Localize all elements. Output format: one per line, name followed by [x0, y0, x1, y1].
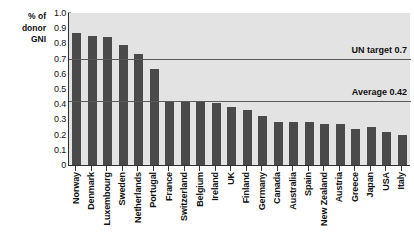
x-axis-label-slot: Ireland	[211, 172, 220, 248]
x-axis-tick-mark	[195, 166, 204, 171]
x-axis-tick-mark	[226, 166, 235, 171]
bar	[196, 101, 205, 165]
x-axis-label: Germany	[257, 172, 267, 210]
x-axis-label: UK	[226, 172, 236, 185]
x-axis-label: New Zealand	[319, 172, 329, 226]
x-axis-label-slot: Italy	[397, 172, 406, 248]
x-axis-tick-mark	[273, 166, 282, 171]
x-axis-tick-mark	[257, 166, 266, 171]
x-axis-label: Canada	[272, 172, 282, 204]
x-axis-tick-mark	[350, 166, 359, 171]
x-axis-label-slot: Austria	[335, 172, 344, 248]
x-axis-label-slot: UK	[226, 172, 235, 248]
bar	[72, 33, 81, 165]
x-axis-tick-mark	[304, 166, 313, 171]
y-axis-tick-label: 0.3	[44, 114, 66, 124]
bar	[305, 122, 314, 165]
x-axis-label-slot: Canada	[273, 172, 282, 248]
bar	[320, 124, 329, 165]
y-axis-tick-label: 0.5	[44, 84, 66, 94]
x-axis-label-slot: Finland	[242, 172, 251, 248]
x-axis-label: Ireland	[210, 172, 220, 201]
x-axis-label-slot: New Zealand	[319, 172, 328, 248]
x-axis-label: Spain	[303, 172, 313, 196]
x-axis-tick-mark	[397, 166, 406, 171]
reference-line	[69, 59, 411, 60]
y-axis-tick-label: 0	[44, 160, 66, 170]
bar	[181, 101, 190, 165]
x-axis-tick-marks	[68, 166, 409, 171]
x-axis-tick-mark	[211, 166, 220, 171]
x-axis-label: Norway	[71, 172, 81, 204]
x-axis-label: Netherlands	[133, 172, 143, 223]
x-axis-tick-mark	[102, 166, 111, 171]
bar	[165, 101, 174, 165]
x-axis-label: Portugal	[148, 172, 158, 208]
plot-area: UN target 0.7Average 0.42	[68, 13, 410, 166]
x-axis-tick-mark	[87, 166, 96, 171]
x-axis-tick-mark	[381, 166, 390, 171]
x-axis-label-slot: Greece	[350, 172, 359, 248]
bar	[150, 69, 159, 165]
bar	[258, 116, 267, 165]
x-axis-label: Finland	[241, 172, 251, 203]
bar	[289, 122, 298, 165]
x-axis-label: Austria	[334, 172, 344, 202]
x-axis-label-slot: Luxembourg	[102, 172, 111, 248]
x-axis-label: France	[164, 172, 174, 201]
y-axis-tick-label: 0.1	[44, 145, 66, 155]
x-axis-label-slot: Denmark	[87, 172, 96, 248]
x-axis-label-slot: Japan	[366, 172, 375, 248]
bar	[134, 54, 143, 165]
x-axis-label-slot: Norway	[71, 172, 80, 248]
x-axis-label-slot: Netherlands	[133, 172, 142, 248]
x-axis-tick-mark	[242, 166, 251, 171]
x-axis-tick-mark	[335, 166, 344, 171]
x-axis-label-slot: Sweden	[118, 172, 127, 248]
x-axis-label: Switzerland	[179, 172, 189, 221]
x-axis-label: Sweden	[117, 172, 127, 205]
x-axis-tick-mark	[288, 166, 297, 171]
x-axis-tick-mark	[118, 166, 127, 171]
x-axis-tick-mark	[133, 166, 142, 171]
x-axis-tick-mark	[319, 166, 328, 171]
y-axis-title: % of donor GNI	[2, 11, 46, 46]
x-axis-tick-mark	[164, 166, 173, 171]
x-axis-tick-mark	[149, 166, 158, 171]
x-axis-label-slot: Belgium	[195, 172, 204, 248]
x-axis-label-slot: Spain	[304, 172, 313, 248]
bar	[119, 45, 128, 165]
x-axis-label-slot: Portugal	[149, 172, 158, 248]
x-axis-label: Greece	[350, 172, 360, 202]
x-axis-label: Denmark	[86, 172, 96, 210]
reference-line-label: UN target 0.7	[351, 45, 407, 55]
bar	[212, 103, 221, 165]
y-axis-tick-label: 0.8	[44, 38, 66, 48]
bar	[382, 132, 391, 165]
x-axis-labels: NorwayDenmarkLuxembourgSwedenNetherlands…	[68, 172, 409, 248]
x-axis-label-slot: Germany	[257, 172, 266, 248]
y-axis-tick-label: 1.0	[44, 8, 66, 18]
x-axis-label: Japan	[365, 172, 375, 198]
x-axis-tick-mark	[366, 166, 375, 171]
x-axis-label-slot: USA	[381, 172, 390, 248]
reference-line-label: Average 0.42	[352, 87, 407, 97]
x-axis-label-slot: France	[164, 172, 173, 248]
y-axis-tick-label: 0.2	[44, 130, 66, 140]
x-axis: NorwayDenmarkLuxembourgSwedenNetherlands…	[68, 166, 409, 248]
aid-spending-bar-chart: % of donor GNI 1.00.90.80.70.60.50.40.30…	[0, 0, 414, 248]
bar	[274, 122, 283, 165]
x-axis-label: Belgium	[195, 172, 205, 207]
x-axis-label: Luxembourg	[102, 172, 112, 226]
x-axis-label: Italy	[396, 172, 406, 190]
x-axis-tick-mark	[71, 166, 80, 171]
y-axis-tick-label: 0.4	[44, 99, 66, 109]
x-axis-tick-mark	[180, 166, 189, 171]
bar	[398, 135, 407, 165]
bar	[243, 110, 252, 165]
bar	[336, 124, 345, 165]
reference-line	[69, 101, 411, 102]
y-axis-tick-label: 0.9	[44, 23, 66, 33]
x-axis-label-slot: Australia	[288, 172, 297, 248]
bar	[367, 127, 376, 165]
